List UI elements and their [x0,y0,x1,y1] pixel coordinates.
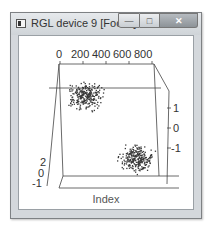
maximize-button[interactable]: □ [140,13,160,28]
top-tick-600: 600 [113,48,131,60]
right-tick-0: 0 [173,122,179,134]
top-tick-0: 0 [56,48,62,60]
close-button[interactable]: ✕ [160,13,198,28]
top-axis [59,61,154,64]
scatter-3d-plot: 0 200 400 600 800 [19,36,194,210]
right-tick-neg1: -1 [171,142,181,154]
rgl-canvas[interactable]: 0 200 400 600 800 [18,35,194,210]
top-tick-400: 400 [92,48,110,60]
left-tick-neg1: -1 [32,177,42,189]
top-tick-200: 200 [71,48,89,60]
minimize-button[interactable]: — [118,13,140,28]
app-icon [16,19,26,28]
title-bar[interactable]: RGL device 9 [Focus] — □ ✕ [11,13,201,35]
rgl-window: RGL device 9 [Focus] — □ ✕ 0 200 400 600… [10,12,202,219]
scatter-points [68,82,156,176]
minimize-icon: — [125,16,134,26]
x-axis-label: Index [19,193,193,205]
maximize-icon: □ [147,16,152,26]
close-icon: ✕ [175,16,183,26]
right-tick-1: 1 [173,102,179,114]
top-tick-800: 800 [134,48,152,60]
window-controls: — □ ✕ [118,13,198,28]
bounding-box [47,64,179,188]
